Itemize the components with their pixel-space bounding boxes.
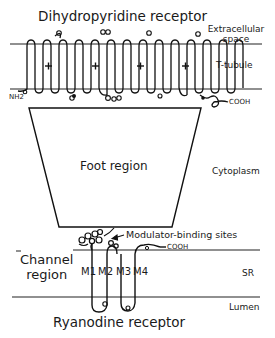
channel-region-label: Channel region <box>20 252 73 282</box>
cytoplasm-label: Cytoplasm <box>212 166 260 176</box>
lumen-label: Lumen <box>229 302 260 312</box>
modulator-arrow <box>112 235 124 240</box>
channel-region-line2: region <box>20 267 73 282</box>
sr-label: SR <box>242 268 254 278</box>
extracellular-line2: space <box>207 34 265 44</box>
channel-region-line1: Channel <box>20 252 73 267</box>
extracellular-line1: Extracellular <box>207 24 265 34</box>
segment-m3-label: M3 <box>116 266 131 277</box>
phosphorylation-site-dot <box>72 94 76 98</box>
dhpr-n-terminus-label: NH2 <box>9 93 24 101</box>
segment-m1-label: M1 <box>81 266 96 277</box>
ryr-segments <box>91 244 166 312</box>
t-tubule-label: T-tubule <box>216 60 253 70</box>
extracellular-space-label: Extracellular space <box>207 24 265 44</box>
segment-m2-label: M2 <box>98 266 113 277</box>
foot-region-label: Foot region <box>80 159 148 173</box>
dhpr-title: Dihydropyridine receptor <box>38 8 207 24</box>
segment-m4-label: M4 <box>133 266 148 277</box>
ryr-title: Ryanodine receptor <box>53 314 185 330</box>
ryr-c-terminus-label: COOH <box>167 243 188 251</box>
modulator-binding-label: Modulator-binding sites <box>126 229 237 240</box>
dhpr-c-terminus-label: COOH <box>229 98 250 106</box>
